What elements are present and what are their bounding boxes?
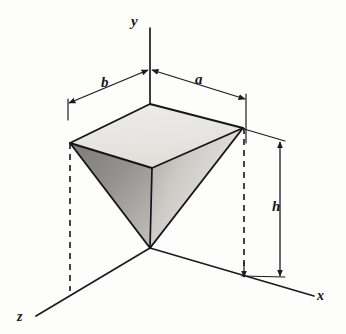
dimension-label-h: h: [272, 199, 280, 214]
z-axis-label: z: [17, 310, 22, 324]
x-axis-line: [150, 248, 314, 296]
z-axis-line: [36, 248, 150, 316]
dimension-label-a: a: [195, 72, 203, 87]
figure-container: y x z a b h: [0, 0, 346, 334]
dimension-label-b: b: [101, 75, 109, 90]
x-axis-label: x: [317, 289, 324, 303]
y-axis-label: y: [131, 14, 138, 29]
pyramid-solid-group: [70, 104, 243, 248]
h-top-extension-line: [244, 129, 285, 141]
pyramid-diagram-svg: [0, 0, 346, 334]
